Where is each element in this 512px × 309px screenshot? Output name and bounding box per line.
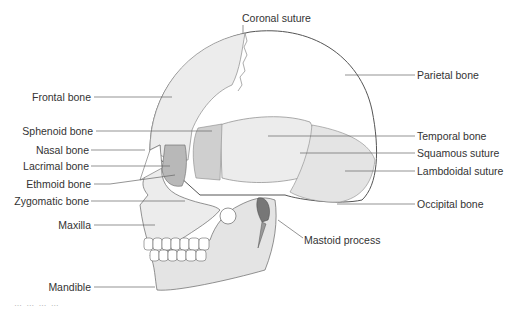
label-mandible: Mandible bbox=[0, 281, 91, 293]
label-coronal-suture: Coronal suture bbox=[242, 12, 311, 24]
label-temporal-bone: Temporal bone bbox=[417, 130, 486, 142]
label-nasal-bone: Nasal bone bbox=[0, 144, 89, 156]
label-parietal-bone: Parietal bone bbox=[417, 69, 479, 81]
caption: … … … … bbox=[14, 299, 60, 308]
ear-canal-shape bbox=[220, 208, 236, 224]
label-ethmoid-bone: Ethmoid bone bbox=[0, 178, 91, 190]
label-squamous-suture: Squamous suture bbox=[417, 147, 499, 159]
label-sphenoid-bone: Sphenoid bone bbox=[0, 125, 93, 137]
label-occipital-bone: Occipital bone bbox=[417, 198, 484, 210]
label-lacrimal-bone: Lacrimal bone bbox=[0, 160, 89, 172]
label-mastoid-process: Mastoid process bbox=[304, 234, 380, 246]
label-frontal-bone: Frontal bone bbox=[0, 91, 91, 103]
label-lambdoidal-suture: Lambdoidal suture bbox=[417, 165, 503, 177]
label-zygomatic-bone: Zygomatic bone bbox=[0, 195, 89, 207]
label-maxilla: Maxilla bbox=[0, 219, 91, 231]
sphenoid-bone-shape bbox=[193, 124, 222, 180]
